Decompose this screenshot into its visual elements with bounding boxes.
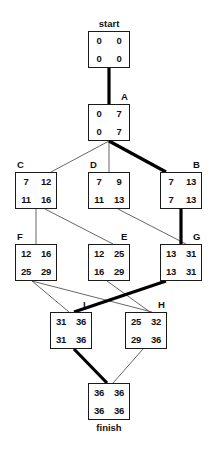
node-I-early-row: 3136 bbox=[51, 313, 91, 331]
node-F-label: F bbox=[17, 232, 23, 242]
node-H-early-start: 25 bbox=[126, 317, 146, 327]
node-D-late-start: 11 bbox=[89, 195, 109, 205]
node-E-early-finish: 25 bbox=[109, 249, 129, 259]
edge-F-to-I bbox=[32, 281, 69, 312]
node-A-early-row: 07 bbox=[89, 105, 129, 123]
node-A-early-finish: 7 bbox=[109, 109, 129, 119]
edge-A-to-B bbox=[109, 141, 166, 172]
node-H-late-finish: 36 bbox=[146, 335, 166, 345]
node-finish-late-row: 3636 bbox=[89, 402, 129, 420]
node-I-late-row: 3136 bbox=[51, 331, 91, 349]
node-I-label: I bbox=[83, 300, 86, 310]
node-H-early-finish: 32 bbox=[146, 317, 166, 327]
node-D[interactable]: 791113 bbox=[88, 172, 130, 209]
node-A-late-start: 0 bbox=[89, 127, 109, 137]
node-G-early-start: 13 bbox=[161, 249, 181, 259]
node-C-early-row: 712 bbox=[16, 173, 56, 191]
node-C-early-finish: 12 bbox=[36, 177, 56, 187]
node-G-late-finish: 31 bbox=[181, 267, 201, 277]
node-G-label: G bbox=[193, 232, 200, 242]
node-A-late-finish: 7 bbox=[109, 127, 129, 137]
node-D-label: D bbox=[90, 160, 97, 170]
node-E-late-finish: 29 bbox=[109, 267, 129, 277]
node-F[interactable]: 12162529 bbox=[15, 244, 57, 281]
node-H-early-row: 2532 bbox=[126, 313, 166, 331]
node-D-late-finish: 13 bbox=[109, 195, 129, 205]
node-H[interactable]: 25322936 bbox=[125, 312, 167, 349]
node-B-label: B bbox=[193, 160, 200, 170]
node-G-early-row: 1331 bbox=[161, 245, 201, 263]
node-C-late-finish: 16 bbox=[36, 195, 56, 205]
node-start-label: start bbox=[88, 19, 130, 29]
node-F-early-finish: 16 bbox=[36, 249, 56, 259]
edge-G-to-I bbox=[74, 281, 166, 312]
node-G-early-finish: 31 bbox=[181, 249, 201, 259]
node-finish-early-row: 3636 bbox=[89, 384, 129, 402]
node-B-late-finish: 13 bbox=[181, 195, 201, 205]
node-F-late-row: 2529 bbox=[16, 263, 56, 281]
node-A-late-row: 07 bbox=[89, 123, 129, 141]
node-D-early-row: 79 bbox=[89, 173, 129, 191]
node-F-early-start: 12 bbox=[16, 249, 36, 259]
edge-I-to-finish bbox=[74, 349, 107, 383]
node-F-late-finish: 29 bbox=[36, 267, 56, 277]
edge-E-to-H bbox=[107, 281, 150, 312]
node-E[interactable]: 12251629 bbox=[88, 244, 130, 281]
node-B[interactable]: 713713 bbox=[160, 172, 202, 209]
node-F-early-row: 1216 bbox=[16, 245, 56, 263]
node-finish-early-finish: 36 bbox=[109, 388, 129, 398]
edge-D-to-G bbox=[118, 209, 186, 244]
node-C-late-start: 11 bbox=[16, 195, 36, 205]
node-F-late-start: 25 bbox=[16, 267, 36, 277]
node-start-early-finish: 0 bbox=[109, 36, 129, 46]
node-D-late-row: 1113 bbox=[89, 191, 129, 209]
node-H-late-start: 29 bbox=[126, 335, 146, 345]
node-finish[interactable]: 36363636 bbox=[88, 383, 130, 420]
node-E-early-start: 12 bbox=[89, 249, 109, 259]
edge-F-to-H bbox=[32, 281, 152, 312]
node-I[interactable]: 31363136 bbox=[50, 312, 92, 349]
node-I-early-finish: 36 bbox=[71, 317, 91, 327]
node-E-label: E bbox=[121, 232, 127, 242]
node-H-label: H bbox=[158, 300, 165, 310]
node-finish-early-start: 36 bbox=[89, 388, 109, 398]
node-finish-label: finish bbox=[88, 423, 130, 433]
node-start-late-finish: 0 bbox=[109, 54, 129, 64]
node-G-late-row: 1331 bbox=[161, 263, 201, 281]
node-start-late-start: 0 bbox=[89, 54, 109, 64]
node-G[interactable]: 13311331 bbox=[160, 244, 202, 281]
node-C-late-row: 1116 bbox=[16, 191, 56, 209]
node-finish-late-finish: 36 bbox=[109, 406, 129, 416]
node-C[interactable]: 7121116 bbox=[15, 172, 57, 209]
node-G-late-start: 13 bbox=[161, 267, 181, 277]
node-D-early-start: 7 bbox=[89, 177, 109, 187]
node-E-early-row: 1225 bbox=[89, 245, 129, 263]
node-start[interactable]: 0000 bbox=[88, 31, 130, 68]
edge-C-to-E bbox=[45, 209, 113, 244]
node-D-early-finish: 9 bbox=[109, 177, 129, 187]
node-start-late-row: 00 bbox=[89, 50, 129, 68]
node-B-early-finish: 13 bbox=[181, 177, 201, 187]
edge-A-to-C bbox=[51, 141, 109, 172]
node-I-late-start: 31 bbox=[51, 335, 71, 345]
node-I-early-start: 31 bbox=[51, 317, 71, 327]
node-E-late-start: 16 bbox=[89, 267, 109, 277]
network-diagram: 0000start0707A7121116C791113D713713B1216… bbox=[0, 0, 210, 452]
node-B-late-start: 7 bbox=[161, 195, 181, 205]
node-A[interactable]: 0707 bbox=[88, 104, 130, 141]
node-C-early-start: 7 bbox=[16, 177, 36, 187]
node-E-late-row: 1629 bbox=[89, 263, 129, 281]
node-start-early-row: 00 bbox=[89, 32, 129, 50]
node-C-label: C bbox=[17, 160, 24, 170]
node-I-late-finish: 36 bbox=[71, 335, 91, 345]
node-finish-late-start: 36 bbox=[89, 406, 109, 416]
node-B-early-row: 713 bbox=[161, 173, 201, 191]
node-A-label: A bbox=[121, 92, 128, 102]
node-H-late-row: 2936 bbox=[126, 331, 166, 349]
node-B-late-row: 713 bbox=[161, 191, 201, 209]
node-A-early-start: 0 bbox=[89, 109, 109, 119]
node-B-early-start: 7 bbox=[161, 177, 181, 187]
edge-H-to-finish bbox=[113, 349, 143, 383]
node-start-early-start: 0 bbox=[89, 36, 109, 46]
